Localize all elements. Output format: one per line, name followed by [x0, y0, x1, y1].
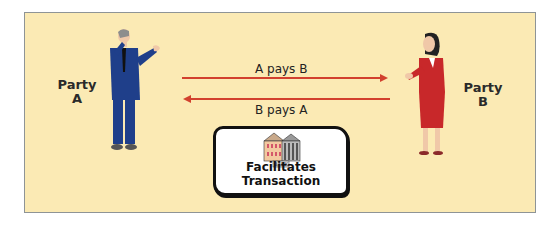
bank-caption: Facilitates Transaction [216, 160, 346, 188]
bank-box: BANK Facilitates Transaction [213, 126, 349, 196]
b-pays-a-label: B pays A [255, 103, 307, 117]
party-b-label-line1: Party [463, 81, 503, 95]
arrow-right-icon [380, 74, 388, 82]
a-pays-b-label: A pays B [255, 62, 307, 76]
party-a-label-line1: Party [57, 78, 97, 92]
party-a-label-line2: A [57, 92, 97, 106]
party-b-label-line2: B [463, 95, 503, 109]
party-b-label: Party B [463, 81, 503, 109]
arrow-left-icon [183, 95, 191, 103]
businesswoman-icon [405, 32, 455, 157]
party-a-label: Party A [57, 78, 97, 106]
businessman-icon [100, 28, 165, 156]
